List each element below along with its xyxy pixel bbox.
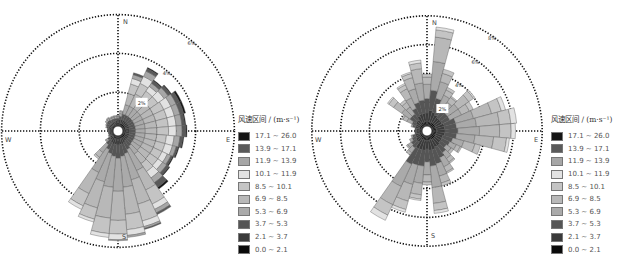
sector-segment <box>117 116 120 118</box>
legend-label: 10.1 ~ 11.9 <box>255 170 297 178</box>
legend-item: 17.1 ~ 26.0 <box>551 130 617 143</box>
wind-rose-left: 2%4%6%NESW <box>0 0 240 256</box>
sector-segment <box>176 125 182 136</box>
sector-segment <box>157 127 169 136</box>
legend-item: 5.3 ~ 6.9 <box>551 206 617 219</box>
legend-label: 6.9 ~ 8.5 <box>255 195 288 203</box>
sector-segment <box>479 125 499 138</box>
legend-swatch <box>551 170 563 179</box>
legend-item: 6.9 ~ 8.5 <box>551 193 617 206</box>
legend-item: 0.0 ~ 2.1 <box>238 243 318 256</box>
legend-item: 2.1 ~ 3.7 <box>551 231 617 244</box>
legend-item: 13.9 ~ 17.1 <box>238 143 318 156</box>
legend-label: 13.9 ~ 17.1 <box>255 145 297 153</box>
legend-item: 17.1 ~ 26.0 <box>238 130 318 143</box>
legend-swatch <box>238 157 250 166</box>
legend-swatch <box>238 144 250 153</box>
wind-sectors <box>370 27 516 220</box>
ring-label: 6% <box>188 40 196 46</box>
legend-swatch <box>238 170 250 179</box>
sector-segment <box>499 124 511 139</box>
legend-rows: 17.1 ~ 26.013.9 ~ 17.111.9 ~ 13.910.1 ~ … <box>238 130 318 256</box>
legend-label: 5.3 ~ 6.9 <box>568 208 601 216</box>
legend-title: 风速区间 / (m·s⁻¹) <box>551 113 617 124</box>
ring-label: 8% <box>488 35 496 41</box>
ring-label: 2% <box>138 100 146 106</box>
legend-label: 13.9 ~ 17.1 <box>568 145 610 153</box>
legend-right: 风速区间 / (m·s⁻¹) 17.1 ~ 26.013.9 ~ 17.111.… <box>551 113 617 256</box>
sector-segment <box>186 125 187 137</box>
legend-item: 3.7 ~ 5.3 <box>238 218 318 231</box>
legend-item: 10.1 ~ 11.9 <box>238 168 318 181</box>
legend-swatch <box>551 157 563 166</box>
ring-label: 6% <box>471 59 479 65</box>
direction-label-n: N <box>432 19 437 27</box>
legend-label: 0.0 ~ 2.1 <box>568 246 601 254</box>
legend-label: 8.5 ~ 10.1 <box>255 183 292 191</box>
sector-segment <box>415 132 417 134</box>
legend-item: 2.1 ~ 3.7 <box>238 231 318 244</box>
ring-label: 4% <box>455 82 463 88</box>
legend-item: 5.3 ~ 6.9 <box>238 206 318 219</box>
legend-swatch <box>238 207 250 216</box>
legend-swatch <box>551 182 563 191</box>
legend-label: 6.9 ~ 8.5 <box>568 195 601 203</box>
legend-label: 5.3 ~ 6.9 <box>255 208 288 216</box>
sector-segment <box>422 182 431 185</box>
sector-segment <box>114 115 117 116</box>
center-hole <box>113 126 123 136</box>
legend-label: 17.1 ~ 26.0 <box>568 132 610 140</box>
legend-swatch <box>551 233 563 242</box>
legend-swatch <box>551 207 563 216</box>
sector-segment <box>433 37 451 63</box>
ring-label: 2% <box>438 106 446 112</box>
legend-label: 11.9 ~ 13.9 <box>568 157 610 165</box>
legend-label: 3.7 ~ 5.3 <box>255 220 288 228</box>
direction-label-e: E <box>226 136 230 144</box>
legend-swatch <box>551 195 563 204</box>
legend-title: 风速区间 / (m·s⁻¹) <box>238 113 318 124</box>
sector-segment <box>423 175 432 182</box>
legend-item: 11.9 ~ 13.9 <box>551 155 617 168</box>
sector-segment <box>182 125 186 137</box>
legend-swatch <box>238 220 250 229</box>
legend-label: 0.0 ~ 2.1 <box>255 246 288 254</box>
sector-segment <box>432 186 446 204</box>
sector-segment <box>168 126 176 136</box>
legend-label: 10.1 ~ 11.9 <box>568 170 610 178</box>
legend-swatch <box>551 220 563 229</box>
legend-label: 11.9 ~ 13.9 <box>255 157 297 165</box>
legend-item: 0.0 ~ 2.1 <box>551 243 617 256</box>
legend-item: 3.7 ~ 5.3 <box>551 218 617 231</box>
direction-label-s: S <box>431 232 435 240</box>
direction-label-e: E <box>534 136 538 144</box>
direction-label-s: S <box>122 233 126 241</box>
legend-label: 3.7 ~ 5.3 <box>568 220 601 228</box>
wind-rose-right: 2%4%6%8%NESW <box>310 0 545 256</box>
sector-segment <box>415 130 416 132</box>
legend-swatch <box>551 132 563 141</box>
legend-left: 风速区间 / (m·s⁻¹) 17.1 ~ 26.013.9 ~ 17.111.… <box>238 113 318 256</box>
legend-swatch <box>238 245 250 254</box>
legend-item: 13.9 ~ 17.1 <box>551 143 617 156</box>
wind-rose-right-plot: 2%4%6%8%NESW <box>310 0 545 256</box>
direction-label-w: W <box>315 136 322 144</box>
direction-label-w: W <box>5 136 12 144</box>
legend-swatch <box>238 233 250 242</box>
legend-item: 8.5 ~ 10.1 <box>238 180 318 193</box>
legend-swatch <box>551 144 563 153</box>
legend-swatch <box>238 182 250 191</box>
legend-item: 8.5 ~ 10.1 <box>551 180 617 193</box>
legend-rows: 17.1 ~ 26.013.9 ~ 17.111.9 ~ 13.910.1 ~ … <box>551 130 617 256</box>
legend-item: 10.1 ~ 11.9 <box>551 168 617 181</box>
ring-label: 4% <box>163 70 171 76</box>
legend-swatch <box>238 132 250 141</box>
legend-item: 11.9 ~ 13.9 <box>238 155 318 168</box>
sector-segment <box>109 220 127 234</box>
legend-label: 2.1 ~ 3.7 <box>568 233 601 241</box>
legend-label: 17.1 ~ 26.0 <box>255 132 297 140</box>
legend-item: 6.9 ~ 8.5 <box>238 193 318 206</box>
sector-segment <box>117 115 120 116</box>
legend-swatch <box>238 195 250 204</box>
legend-label: 2.1 ~ 3.7 <box>255 233 288 241</box>
